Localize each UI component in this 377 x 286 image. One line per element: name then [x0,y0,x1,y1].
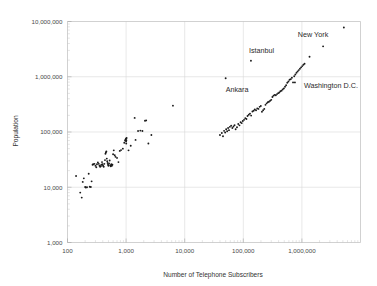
y-tick-label: 1,000,000 [35,73,63,80]
y-tick-label: 1,000 [47,239,63,246]
data-point [230,125,232,127]
gridlines [68,22,361,243]
data-point [293,75,295,77]
data-point [106,158,108,160]
data-point [225,128,227,130]
annotation-label: New York [298,30,329,39]
data-point [292,81,294,83]
data-point [235,128,237,130]
data-point [105,150,107,152]
data-point [257,108,259,110]
data-point [101,161,103,163]
data-point [222,135,224,137]
data-point [309,56,311,58]
data-point [226,130,228,132]
data-point [134,117,136,119]
data-point [249,113,251,115]
plot-canvas: 1001,00010,000100,0001,000,000 1,00010,0… [0,0,377,286]
data-point [219,134,221,136]
data-point [234,124,236,126]
data-point [128,149,130,151]
data-point [255,109,257,111]
data-point [125,143,127,145]
data-point [221,132,223,134]
data-point [95,166,97,168]
data-point [137,130,139,132]
data-point [250,60,252,62]
data-point [125,139,127,141]
data-point [287,81,289,83]
data-point [111,164,113,166]
y-axis-title: Population [12,115,20,146]
data-point [224,132,226,134]
data-point [263,108,265,110]
data-point [88,173,90,175]
data-point [343,27,345,29]
annotation-label: Istanbul [249,46,275,55]
data-point [145,119,147,121]
data-point [104,159,106,161]
x-tick-label: 100 [62,247,73,254]
scatter-chart: 1001,00010,000100,0001,000,000 1,00010,0… [0,0,377,286]
data-point [135,139,137,141]
data-point [294,74,296,76]
x-axis-title: Number of Telephone Subscribers [163,271,263,279]
data-point [112,153,114,155]
data-point [291,77,293,79]
data-point [245,118,247,120]
x-tick-label: 1,000,000 [288,247,316,254]
x-tick-label: 10,000 [175,247,194,254]
data-point [322,45,324,47]
y-tick-label: 10,000,000 [32,18,64,25]
data-point [265,104,267,106]
data-point [96,163,98,165]
data-point [106,160,108,162]
data-point [120,149,122,151]
data-point [270,99,272,101]
data-point [147,143,149,145]
data-point [172,105,174,107]
data-point [108,162,110,164]
data-point [239,124,241,126]
data-point [93,163,95,165]
data-point [109,160,111,162]
data-point [283,87,285,89]
data-point [122,148,124,150]
data-point [285,84,287,86]
data-point [123,142,125,144]
data-point [250,115,252,117]
data-point [113,149,115,151]
data-point [260,105,262,107]
data-point [243,119,245,121]
y-tick-labels: 1,00010,000100,0001,000,00010,000,000 [32,18,64,246]
data-points [75,27,345,199]
data-point [86,186,88,188]
data-point [82,181,84,183]
data-point [150,134,152,136]
data-point [141,130,143,132]
y-tick-label: 10,000 [44,184,63,191]
data-point [241,122,243,124]
x-tick-label: 100,000 [232,247,255,254]
annotation-label: Washington D.C. [304,81,358,90]
data-point [139,130,141,132]
data-point [117,161,119,163]
data-point [294,81,296,83]
data-point [108,165,110,167]
data-point [261,111,263,113]
data-point [79,192,81,194]
annotation-label: Ankara [226,85,249,94]
data-point [83,177,85,179]
data-point [236,126,238,128]
data-point [304,63,306,65]
x-tick-label: 1,000 [118,247,134,254]
data-point [227,127,229,129]
y-tick-label: 100,000 [40,128,63,135]
data-point [116,157,118,159]
data-point [225,77,227,79]
data-point [114,154,116,156]
data-point [130,145,132,147]
data-point [126,137,128,139]
data-point [103,166,105,168]
data-point [75,175,77,177]
